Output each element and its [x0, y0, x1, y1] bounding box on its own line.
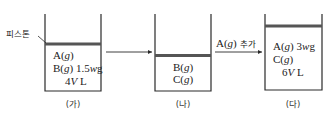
container-ga: 피스톤 A(g) B(g) 1.5wg 4V L (가) [6, 14, 103, 109]
container-na: B(g) C(g) (나) [155, 14, 211, 109]
piston [155, 54, 211, 57]
container-label-na: (나) [176, 99, 191, 109]
gas-c-label: C(g) [173, 73, 194, 86]
add-a-label: A(g) 추가 [216, 37, 256, 50]
container-label-da: (다) [286, 99, 301, 109]
volume-label: 4V L [65, 75, 87, 87]
piston [265, 25, 322, 28]
gas-a-label: A(g) 3wg [273, 40, 315, 53]
diagram-canvas: 피스톤 A(g) B(g) 1.5wg 4V L (가) B(g) C(g) (… [0, 0, 333, 116]
gas-c-label: C(g) [273, 53, 294, 66]
container-label-ga: (가) [66, 99, 81, 109]
gas-a-label: A(g) [53, 49, 74, 62]
gas-b-label: B(g) 1.5wg [53, 62, 103, 75]
container-da: A(g) 3wg C(g) 6V L (다) [265, 14, 322, 109]
piston [45, 43, 101, 46]
volume-label: 6V L [282, 66, 304, 78]
piston-label: 피스톤 [6, 29, 30, 39]
